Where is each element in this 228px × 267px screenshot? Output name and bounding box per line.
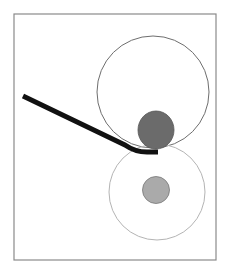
roller-diagram xyxy=(0,0,228,267)
lower-hub-circle xyxy=(143,177,170,204)
upper-hub-circle xyxy=(138,111,174,149)
